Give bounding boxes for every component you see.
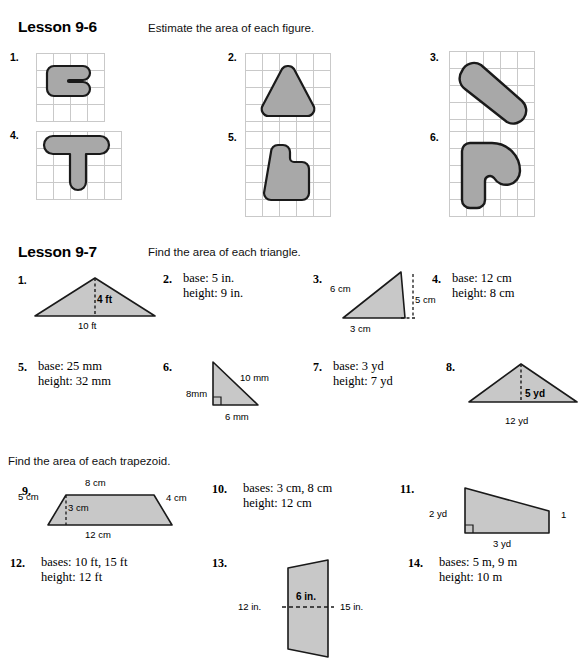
problem-number-9-7-1: 1. <box>18 274 27 286</box>
problem-number-9-6-2: 2. <box>228 51 237 63</box>
problem-number-9-6-1: 1. <box>10 51 19 63</box>
problem-text-9-7-4-line2: height: 8 cm <box>452 286 515 301</box>
grid-9-6-1 <box>36 53 105 122</box>
lesson-9-7-title: Lesson 9-7 <box>18 243 97 261</box>
lesson-9-7-direction: Find the area of each triangle. <box>148 246 301 258</box>
problem-text-9-7-7-line1: base: 3 yd <box>333 359 384 374</box>
problem-number-9-6-4: 4. <box>10 129 19 141</box>
label-9-height: 3 cm <box>68 502 89 513</box>
problem-number-11: 11. <box>400 482 414 497</box>
problem-number-9-7-5: 5. <box>18 360 27 375</box>
label-9-bottom: 12 cm <box>85 529 111 540</box>
label-9-7-3-base: 3 cm <box>350 323 371 334</box>
label-9-7-6-base: 6 mm <box>225 411 249 422</box>
figure-rounded-t-shape <box>36 131 122 200</box>
problem-number-14: 14. <box>408 556 423 571</box>
grid-9-6-2 <box>245 53 331 139</box>
label-11-left: 2 yd <box>429 508 447 519</box>
label-9-7-1-height: 4 ft <box>97 294 112 305</box>
label-13-right: 15 in. <box>340 601 363 612</box>
label-9-top: 8 cm <box>85 477 106 488</box>
figure-rounded-hook-shape <box>449 131 535 217</box>
problem-number-9-7-3: 3. <box>313 272 322 287</box>
figure-rounded-step-block <box>245 131 331 217</box>
problem-text-12-line2: height: 12 ft <box>41 570 102 585</box>
label-9-7-8-base: 12 yd <box>505 415 528 426</box>
figure-9-7-6-right-triangle <box>196 355 306 417</box>
problem-number-9-6-6: 6. <box>430 131 439 143</box>
label-9-right: 4 cm <box>166 492 187 503</box>
problem-text-14-line1: bases: 5 m, 9 m <box>439 555 517 570</box>
label-9-7-6-hyp: 10 mm <box>240 372 269 383</box>
grid-9-6-3 <box>449 51 535 137</box>
problem-text-9-7-5-line1: base: 25 mm <box>38 359 102 374</box>
problem-number-9-7-2: 2. <box>163 272 172 287</box>
problem-number-10: 10. <box>212 482 227 497</box>
figure-blocky-c-shape <box>36 53 105 122</box>
problem-number-9-6-3: 3. <box>430 51 439 63</box>
grid-9-6-4 <box>36 131 122 200</box>
figure-diagonal-capsule <box>449 51 535 137</box>
problem-number-9-7-4: 4. <box>432 272 441 287</box>
label-9-7-8-height: 5 yd <box>525 388 545 399</box>
label-11-right: 1 <box>561 509 566 520</box>
problem-text-14-line2: height: 10 m <box>439 570 502 585</box>
label-11-bottom: 3 yd <box>493 538 511 549</box>
label-9-7-1-base: 10 ft <box>78 320 97 331</box>
figure-9-7-8-triangle <box>465 356 585 414</box>
problem-number-13: 13. <box>212 556 227 571</box>
figure-13-trapezoid <box>270 555 380 665</box>
problem-text-9-7-5-line2: height: 32 mm <box>38 374 111 389</box>
lesson-9-6-direction: Estimate the area of each figure. <box>148 22 314 34</box>
label-9-left: 5 cm <box>18 491 39 502</box>
problem-text-9-7-4-line1: base: 12 cm <box>452 271 512 286</box>
problem-number-12: 12. <box>10 556 25 571</box>
problem-number-9-7-6: 6. <box>163 360 172 375</box>
trapezoid-direction: Find the area of each trapezoid. <box>8 455 170 467</box>
label-9-7-3-side: 6 cm <box>330 283 351 294</box>
problem-number-9-7-7: 7. <box>313 360 322 375</box>
problem-text-9-7-2-line2: height: 9 in. <box>183 286 243 301</box>
figure-rounded-triangle <box>245 53 331 139</box>
problem-text-9-7-7-line2: height: 7 yd <box>333 374 393 389</box>
label-13-left: 12 in. <box>238 601 261 612</box>
problem-number-9-6-5: 5. <box>228 131 237 143</box>
label-13-mid: 6 in. <box>296 591 316 602</box>
problem-text-10-line2: height: 12 cm <box>243 496 312 511</box>
label-9-7-3-height: 5 cm <box>415 294 436 305</box>
problem-text-9-7-2-line1: base: 5 in. <box>183 271 234 286</box>
problem-number-9-7-8: 8. <box>446 360 455 375</box>
problem-text-12-line1: bases: 10 ft, 15 ft <box>41 555 127 570</box>
grid-9-6-5 <box>245 131 331 217</box>
problem-text-10-line1: bases: 3 cm, 8 cm <box>243 481 332 496</box>
grid-9-6-6 <box>449 131 535 217</box>
label-9-7-6-side: 8mm <box>186 388 207 399</box>
figure-9-trapezoid <box>36 484 186 539</box>
lesson-9-6-title: Lesson 9-6 <box>18 18 97 36</box>
